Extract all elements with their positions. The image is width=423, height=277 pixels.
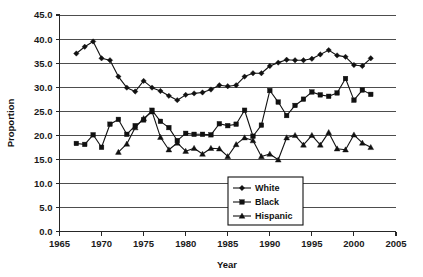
data-point-square <box>225 123 230 128</box>
data-point-square <box>74 141 79 146</box>
chart-background <box>0 0 423 277</box>
data-point-square <box>276 100 281 105</box>
data-point-square <box>352 98 357 103</box>
y-tick-label: 20.0 <box>34 130 53 141</box>
y-tick-label: 5.0 <box>39 202 52 213</box>
data-point-square <box>217 121 222 126</box>
data-point-square <box>125 132 130 137</box>
x-tick-label: 1990 <box>259 238 280 249</box>
data-point-square <box>108 122 113 127</box>
y-tick-label: 25.0 <box>34 106 53 117</box>
data-point-square <box>360 88 365 93</box>
x-tick-label: 1995 <box>301 238 323 249</box>
x-tick-label: 2000 <box>343 238 364 249</box>
data-point-square <box>268 88 273 93</box>
data-point-square <box>368 92 373 97</box>
x-tick-label: 1975 <box>133 238 155 249</box>
data-point-square <box>293 103 298 108</box>
y-axis-title: Proportion <box>5 99 16 148</box>
x-tick-label: 1985 <box>217 238 239 249</box>
chart-legend: WhiteBlackHispanic <box>228 177 303 225</box>
data-point-square <box>192 132 197 137</box>
data-point-square <box>318 93 323 98</box>
legend-label: Hispanic <box>255 211 293 221</box>
data-point-square <box>301 97 306 102</box>
y-tick-label: 0.0 <box>39 226 52 237</box>
data-point-square <box>82 142 87 147</box>
y-tick-label: 30.0 <box>34 82 53 93</box>
data-point-square <box>310 90 315 95</box>
data-point-square <box>284 113 289 118</box>
legend-label: Black <box>255 197 280 207</box>
legend-label: White <box>255 183 280 193</box>
x-axis-title: Year <box>217 259 237 270</box>
chart-figure: 0.05.010.015.020.025.030.035.040.045.0 1… <box>0 0 423 277</box>
y-tick-label: 40.0 <box>34 34 53 45</box>
data-point-square <box>209 133 214 138</box>
line-chart: 0.05.010.015.020.025.030.035.040.045.0 1… <box>0 0 423 277</box>
data-point-square <box>242 108 247 113</box>
x-tick-label: 1980 <box>175 238 196 249</box>
data-point-square <box>116 117 121 122</box>
data-point-square <box>200 132 205 137</box>
data-point-square <box>158 119 163 124</box>
data-point-square <box>167 125 172 130</box>
y-tick-label: 15.0 <box>34 154 53 165</box>
y-tick-label: 45.0 <box>34 9 53 20</box>
data-point-square <box>240 200 245 205</box>
data-point-square <box>234 122 239 127</box>
y-tick-label: 35.0 <box>34 58 53 69</box>
data-point-square <box>326 94 331 99</box>
x-tick-label: 1965 <box>49 238 71 249</box>
data-point-square <box>259 123 264 128</box>
data-point-square <box>91 133 96 138</box>
data-point-square <box>343 76 348 81</box>
data-point-square <box>335 91 340 96</box>
data-point-square <box>183 131 188 136</box>
x-tick-label: 1970 <box>91 238 112 249</box>
y-tick-label: 10.0 <box>34 178 53 189</box>
x-tick-label: 2005 <box>385 238 407 249</box>
data-point-square <box>99 145 104 150</box>
